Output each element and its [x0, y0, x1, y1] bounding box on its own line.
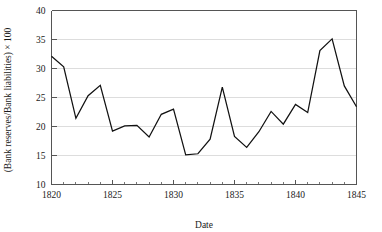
x-tick-label: 1835: [225, 190, 244, 200]
x-tick-label: 1840: [286, 190, 305, 200]
x-tick-label: 1825: [103, 190, 122, 200]
y-tick-label: 30: [36, 64, 46, 74]
x-axis-title: Date: [195, 220, 213, 230]
chart-figure: 10152025303540 182018251830183518401845 …: [0, 0, 382, 232]
y-tick-label: 20: [36, 122, 46, 132]
y-tick-label: 25: [36, 93, 46, 103]
x-tick-label: 1845: [347, 190, 366, 200]
y-axis-title: (Bank reserves/Bank liabilities) × 100: [3, 27, 14, 172]
x-tick-label: 1820: [42, 190, 61, 200]
y-tick-label: 35: [36, 35, 46, 45]
x-tick-label: 1830: [164, 190, 183, 200]
y-tick-label: 40: [36, 6, 46, 16]
y-tick-label: 15: [36, 151, 46, 161]
line-chart: 10152025303540 182018251830183518401845 …: [0, 0, 382, 232]
y-tick-label: 10: [36, 180, 46, 190]
